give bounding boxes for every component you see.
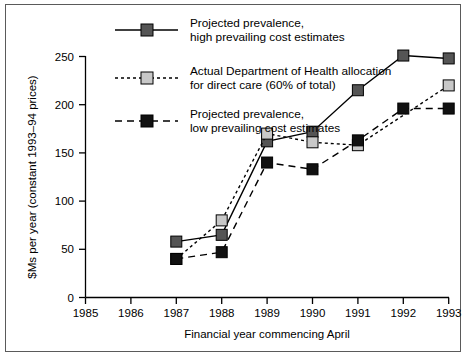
legend-label-low-line2: low prevailing cost estimates <box>190 121 340 135</box>
data-point[interactable] <box>443 80 454 91</box>
y-tick-label-250: 250 <box>55 51 74 63</box>
legend-swatch-square-gray <box>141 24 153 36</box>
legend-swatch-square-lightgray <box>141 72 153 84</box>
y-tick-label-200: 200 <box>55 99 74 111</box>
chart-figure: 250 200 150 100 50 0 $Ms per year (const… <box>0 0 468 359</box>
data-point[interactable] <box>262 157 273 168</box>
x-tick-label-1988: 1988 <box>209 307 235 319</box>
x-tick-label-1993: 1993 <box>436 307 462 319</box>
legend-entry-low[interactable]: Projected prevalence, low prevailing cos… <box>115 107 340 135</box>
data-point[interactable] <box>443 103 454 114</box>
legend-entry-actual[interactable]: Actual Department of Health allocation f… <box>115 64 391 92</box>
x-tick-label-1985: 1985 <box>73 307 99 319</box>
data-point[interactable] <box>216 215 227 226</box>
data-point[interactable] <box>216 247 227 258</box>
data-point[interactable] <box>443 53 454 64</box>
legend-swatch-square-black <box>141 115 153 127</box>
data-point[interactable] <box>307 164 318 175</box>
chart-legend: Projected prevalence, high prevailing co… <box>115 16 391 135</box>
x-tick-label-1992: 1992 <box>391 307 417 319</box>
y-tick-label-50: 50 <box>61 243 74 255</box>
legend-label-high-line1: Projected prevalence, <box>190 16 304 30</box>
legend-label-high-line2: high prevailing cost estimates <box>190 30 345 44</box>
data-point[interactable] <box>216 229 227 240</box>
data-point[interactable] <box>171 236 182 247</box>
y-tick-label-0: 0 <box>68 292 74 304</box>
data-point[interactable] <box>352 135 363 146</box>
data-point[interactable] <box>398 50 409 61</box>
x-axis-title: Financial year commencing April <box>184 328 350 340</box>
data-point[interactable] <box>307 137 318 148</box>
y-tick-label-150: 150 <box>55 147 74 159</box>
x-tick-label-1989: 1989 <box>254 307 280 319</box>
y-tick-label-100: 100 <box>55 195 74 207</box>
x-tick-label-1987: 1987 <box>164 307 190 319</box>
data-point[interactable] <box>352 85 363 96</box>
data-point[interactable] <box>398 103 409 114</box>
legend-label-low-line1: Projected prevalence, <box>190 107 304 121</box>
x-tick-label-1990: 1990 <box>300 307 326 319</box>
legend-entry-high[interactable]: Projected prevalence, high prevailing co… <box>115 16 345 44</box>
legend-label-actual-line2: for direct care (60% of total) <box>190 78 336 92</box>
legend-label-actual-line1: Actual Department of Health allocation <box>190 64 391 78</box>
x-tick-label-1986: 1986 <box>118 307 144 319</box>
y-axis-title: $Ms per year (constant 1993–94 prices) <box>26 75 38 278</box>
data-point[interactable] <box>171 253 182 264</box>
x-tick-label-1991: 1991 <box>345 307 371 319</box>
chart-plot-area: 250 200 150 100 50 0 $Ms per year (const… <box>0 0 468 359</box>
y-axis-ticks <box>79 57 86 298</box>
x-axis-ticks <box>86 298 449 305</box>
